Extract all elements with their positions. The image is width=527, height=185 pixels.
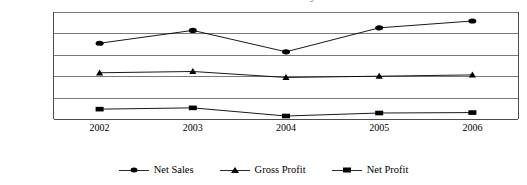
data-point-marker	[282, 114, 290, 119]
data-point-marker	[282, 49, 290, 54]
data-point-marker	[189, 28, 197, 33]
data-point-marker	[375, 111, 383, 116]
circle-marker-icon	[119, 165, 149, 176]
legend-marker	[343, 168, 351, 173]
series-net-sales	[96, 18, 477, 54]
series-layer	[53, 12, 519, 119]
gridline	[54, 119, 518, 120]
series-line	[100, 21, 473, 52]
x-axis-label: 2006	[462, 122, 482, 134]
data-point-marker	[375, 25, 383, 30]
x-axis-label: 2003	[183, 122, 203, 134]
data-point-marker	[96, 41, 104, 46]
data-point-marker	[189, 106, 197, 111]
data-point-marker	[468, 110, 476, 115]
chart-title-fragment: Sales and Profitability	[0, 0, 527, 2]
square-marker-icon	[332, 165, 362, 176]
x-axis: 20022003200420052006	[53, 122, 519, 136]
legend-marker	[231, 167, 239, 173]
series-net-profit	[96, 106, 477, 119]
series-gross-profit	[96, 68, 476, 80]
legend-marker	[130, 168, 137, 173]
legend-label: Net Sales	[154, 164, 194, 176]
legend-item-net-sales[interactable]: Net Sales	[119, 164, 194, 176]
x-axis-label: 2005	[369, 122, 389, 134]
x-axis-label: 2004	[276, 122, 296, 134]
triangle-marker-icon	[220, 165, 250, 176]
legend-item-gross-profit[interactable]: Gross Profit	[220, 164, 306, 176]
data-point-marker	[468, 18, 476, 23]
line-chart: Sales and Profitability 050,000100,00015…	[0, 0, 527, 185]
legend-item-net-profit[interactable]: Net Profit	[332, 164, 409, 176]
legend-label: Net Profit	[367, 164, 409, 176]
legend-label: Gross Profit	[255, 164, 306, 176]
x-axis-label: 2002	[90, 122, 110, 134]
chart-legend: Net SalesGross ProfitNet Profit	[0, 160, 527, 180]
data-point-marker	[96, 107, 104, 112]
